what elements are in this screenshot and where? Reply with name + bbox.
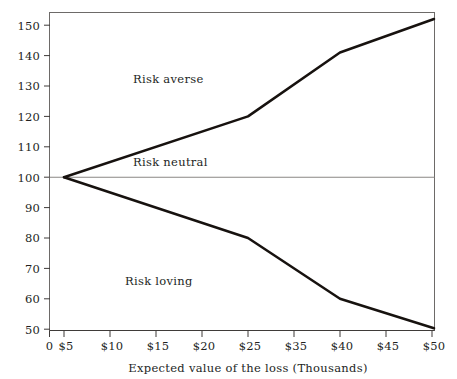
y-tick-label-130: 130 (17, 79, 40, 93)
y-tick-label-90: 90 (25, 201, 40, 215)
x-tick-label-15: $15 (147, 339, 170, 353)
x-tick-label-35: $35 (285, 339, 308, 353)
x-axis-title: Expected value of the loss (Thousands) (128, 361, 367, 375)
y-tick-label-120: 120 (17, 110, 40, 124)
x-axis-tick-labels: 0 $5 $10 $15 $20 $25 $35 $40 $45 $50 (46, 339, 446, 353)
y-axis-tick-labels: 150 140 130 120 110 100 90 80 70 60 50 (17, 19, 40, 337)
x-tick-label-5: $5 (58, 339, 73, 353)
y-tick-label-50: 50 (25, 323, 40, 337)
risk-loving-label: Risk loving (125, 274, 193, 288)
y-tick-label-150: 150 (17, 19, 40, 33)
y-tick-label-80: 80 (25, 231, 40, 245)
y-tick-label-70: 70 (25, 262, 40, 276)
x-tick-label-45: $45 (377, 339, 400, 353)
x-axis-ticks (50, 331, 433, 337)
y-tick-label-100: 100 (17, 171, 40, 185)
x-tick-label-50: $50 (423, 339, 446, 353)
x-tick-label-0: 0 (46, 339, 54, 353)
y-tick-label-60: 60 (25, 292, 40, 306)
x-tick-label-25: $25 (239, 339, 262, 353)
risk-averse-label: Risk averse (133, 72, 204, 86)
risk-preference-chart-figure: 150 140 130 120 110 100 90 80 70 60 50 (0, 0, 457, 379)
y-tick-label-140: 140 (17, 49, 40, 63)
plot-frame (50, 13, 435, 331)
x-tick-label-10: $10 (101, 339, 124, 353)
x-tick-label-40: $40 (331, 339, 354, 353)
chart-canvas: 150 140 130 120 110 100 90 80 70 60 50 (0, 0, 457, 379)
risk-neutral-label: Risk neutral (133, 155, 208, 169)
x-tick-label-20: $20 (193, 339, 216, 353)
y-tick-label-110: 110 (17, 140, 40, 154)
